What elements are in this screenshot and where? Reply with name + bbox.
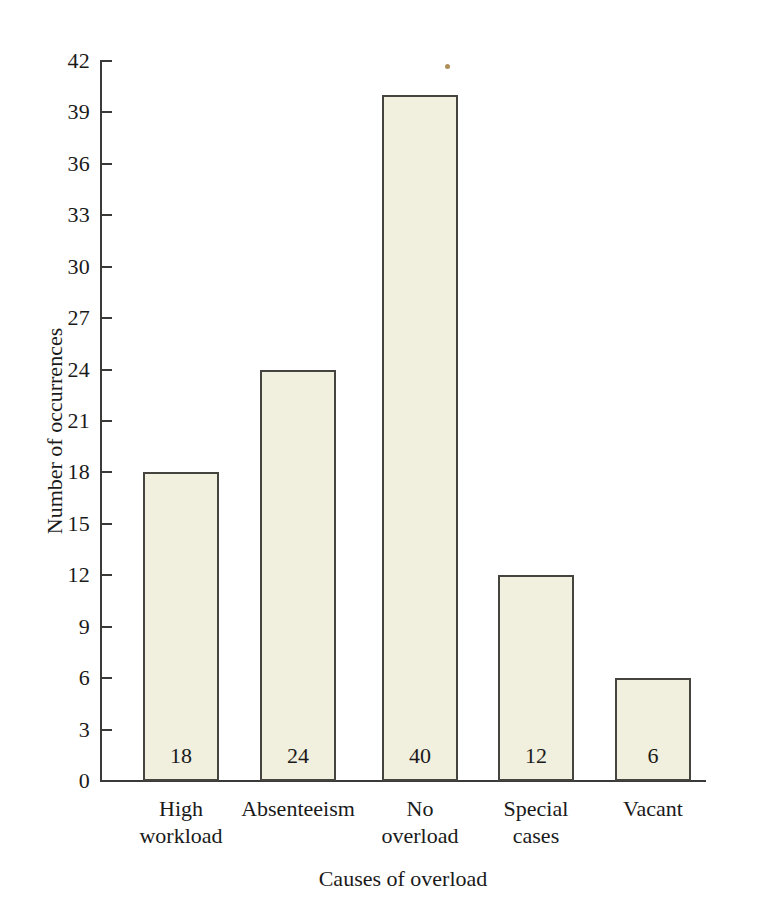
y-axis-tick-label: 0 bbox=[48, 770, 90, 792]
y-axis-tick-label-text: 9 bbox=[54, 616, 90, 638]
bar-chart-figure: 42393633302724211815129630 Number of occ… bbox=[0, 0, 777, 921]
y-axis-tick-label: 3 bbox=[48, 719, 90, 741]
y-axis-tick-label: 6 bbox=[48, 667, 90, 689]
y-axis-tick bbox=[102, 111, 112, 113]
y-axis-tick bbox=[102, 729, 112, 731]
bar-value-label: 12 bbox=[498, 745, 574, 767]
bar bbox=[260, 370, 336, 781]
y-axis-title: Number of occurrences bbox=[44, 281, 66, 581]
y-axis-tick bbox=[102, 626, 112, 628]
y-axis-tick-label-text: 33 bbox=[54, 204, 90, 226]
y-axis-tick bbox=[102, 60, 112, 62]
bar bbox=[143, 472, 219, 781]
y-axis-tick-label-text: 39 bbox=[54, 101, 90, 123]
y-axis-tick-label: 30 bbox=[48, 256, 90, 278]
y-axis-tick-label-text: 3 bbox=[54, 719, 90, 741]
y-axis-tick bbox=[102, 214, 112, 216]
bar-value-label: 6 bbox=[615, 745, 691, 767]
y-axis-tick bbox=[102, 677, 112, 679]
y-axis-tick bbox=[102, 369, 112, 371]
y-axis-tick-label-text: 42 bbox=[54, 50, 90, 72]
x-axis-category-label-line: cases bbox=[456, 822, 616, 849]
y-axis-tick-label-text: 6 bbox=[54, 667, 90, 689]
y-axis-tick-label: 42 bbox=[48, 50, 90, 72]
bar-value-label: 24 bbox=[260, 745, 336, 767]
y-axis-tick bbox=[102, 471, 112, 473]
y-axis-tick-label: 39 bbox=[48, 101, 90, 123]
x-axis-category-label-line: Vacant bbox=[573, 795, 733, 822]
y-axis-tick-label-text: 36 bbox=[54, 153, 90, 175]
y-axis-tick bbox=[102, 266, 112, 268]
y-axis-tick-label: 9 bbox=[48, 616, 90, 638]
bar-value-label: 40 bbox=[382, 745, 458, 767]
y-axis-tick-label-text: 30 bbox=[54, 256, 90, 278]
x-axis-category-label: Vacant bbox=[573, 795, 733, 822]
y-axis-tick-label: 33 bbox=[48, 204, 90, 226]
y-axis-tick-label: 36 bbox=[48, 153, 90, 175]
y-axis-tick bbox=[102, 574, 112, 576]
y-axis-tick bbox=[102, 523, 112, 525]
y-axis-tick bbox=[102, 317, 112, 319]
scan-artifact-speck bbox=[445, 64, 450, 69]
bar bbox=[382, 95, 458, 781]
x-axis-title: Causes of overload bbox=[100, 868, 706, 890]
y-axis-tick-label-text: 0 bbox=[54, 770, 90, 792]
bar-value-label: 18 bbox=[143, 745, 219, 767]
y-axis-tick bbox=[102, 420, 112, 422]
y-axis-tick bbox=[102, 163, 112, 165]
x-axis-category-label-line: workload bbox=[101, 822, 261, 849]
